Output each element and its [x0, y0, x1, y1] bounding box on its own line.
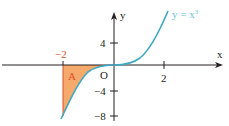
curve-label: y = x3	[172, 8, 199, 20]
curve-label-base: y = x	[172, 8, 195, 20]
tick-label-neg4: −4	[94, 85, 106, 97]
tick-label-neg8: −8	[94, 110, 106, 122]
tick-label-4: 4	[100, 37, 106, 49]
tick-label-2: 2	[161, 72, 167, 84]
x-axis-label: x	[217, 48, 223, 60]
y-axis-label: y	[120, 9, 126, 21]
cubic-graph: y x O 2 4 −4 −8 −2 A y = x3	[0, 0, 229, 126]
curve-label-exponent: 3	[195, 8, 199, 16]
tick-label-neg2: −2	[55, 48, 67, 60]
origin-label: O	[100, 69, 108, 81]
region-label-a: A	[68, 70, 76, 82]
